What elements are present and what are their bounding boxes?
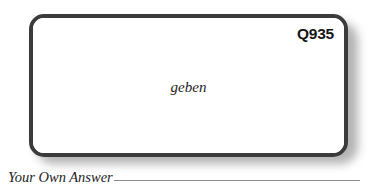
flashcard-page: Q935 geben Your Own Answer [0, 0, 379, 192]
flashcard-face: Q935 geben [33, 18, 344, 153]
answer-write-in-rule[interactable] [114, 180, 360, 181]
card-term-text: geben [33, 80, 344, 95]
your-own-answer-label: Your Own Answer [8, 170, 113, 185]
flashcard[interactable]: Q935 geben [29, 14, 348, 157]
your-own-answer-area[interactable]: Your Own Answer [8, 170, 360, 190]
card-id-label: Q935 [297, 26, 334, 42]
